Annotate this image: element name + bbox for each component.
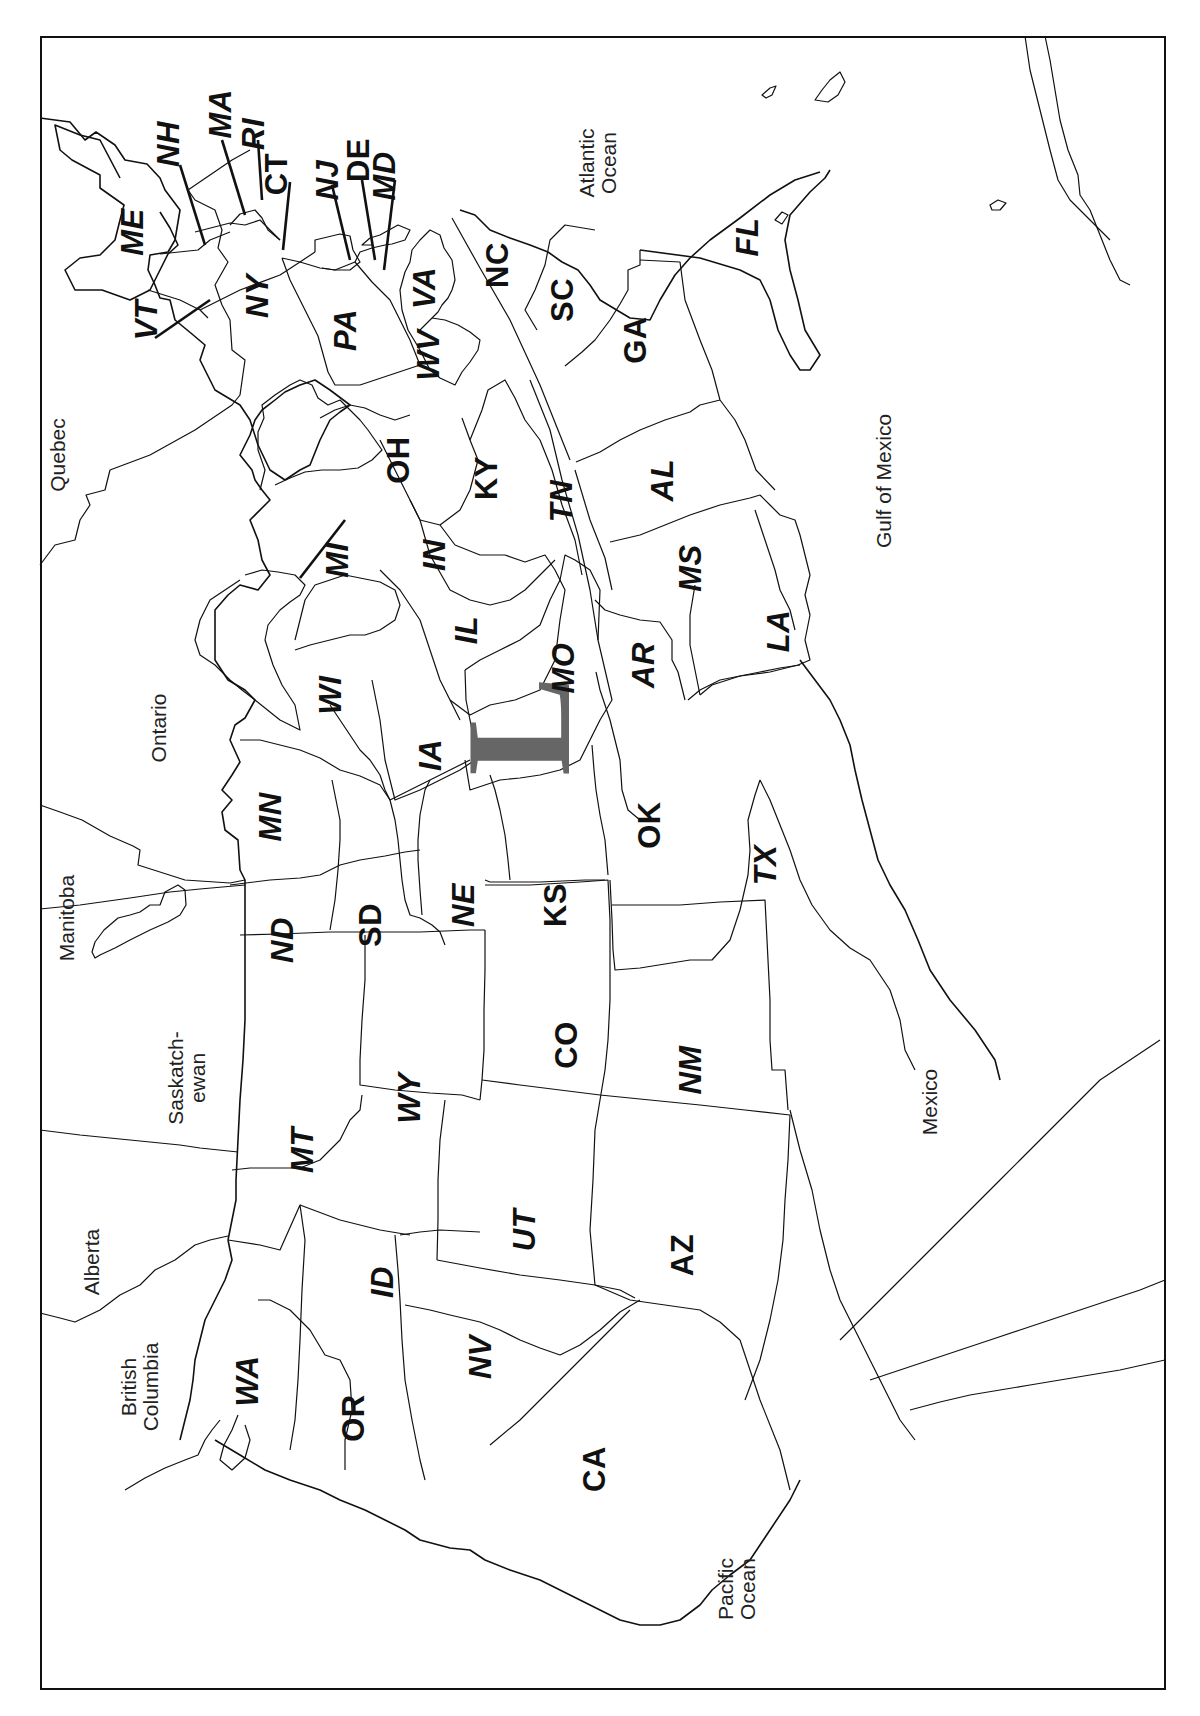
state-label-or: OR [338,1394,369,1442]
state-label-vt: VT [131,300,162,341]
state-label-mt: MT [287,1127,318,1173]
state-label-mn: MN [255,792,286,841]
baja-coast [840,1040,1160,1340]
ct-ri-border [230,210,280,240]
region-label-line: Atlantic [576,129,598,198]
ar-ok-border [596,672,640,820]
al-ms-border [610,495,760,542]
yucatan-peninsula [1045,36,1130,285]
state-label-md: MD [369,151,400,200]
state-label-wi: WI [315,676,346,715]
region-label-alberta: Alberta [81,1229,102,1296]
region-label-line: Gulf of Mexico [872,414,895,548]
region-label-line: Saskatch- [165,1031,187,1124]
nj-outline [315,234,360,270]
state-label-nv: NV [465,1335,496,1379]
tx-mexico-border [760,780,915,1070]
ar-la-border [690,585,700,695]
state-label-il: IL [451,616,482,645]
state-label-ny: NY [242,274,273,318]
alberta-bc-border [40,1236,228,1322]
lake-michigan [295,575,400,650]
region-label-line: Quebec [46,418,69,492]
state-label-ne: NE [448,883,479,927]
state-label-sd: SD [355,903,386,947]
region-label-british-columbia: BritishColumbia [118,1343,162,1432]
wa-id-border [228,1205,305,1450]
region-label-quebec: Quebec [47,418,68,492]
region-label-mexico: Mexico [919,1069,940,1136]
region-label-pacific-ocean: PacificOcean [715,1558,759,1620]
gulf-california [910,1360,1165,1410]
region-label-gulf-of-mexico: Gulf of Mexico [873,414,894,548]
nd-sd-border [330,780,340,930]
state-label-nc: NC [482,242,513,288]
wa-or-border [258,1300,352,1470]
lake-superior [195,570,305,730]
tn-al-border [575,470,612,590]
state-label-ks: KS [540,883,571,927]
ga-fl-border [640,260,775,490]
state-label-ct: CT [261,153,292,195]
state-label-ma: MA [205,89,236,138]
co-ut-nm-border [482,1080,790,1115]
mn-nd-border [230,850,420,885]
island-4 [775,212,788,224]
ar-tx-border [688,665,800,700]
state-label-ms: MS [675,544,706,592]
lake-winnipeg [92,885,186,958]
region-label-saskatchewan: Saskatch-ewan [165,1031,209,1124]
md-de-outline [355,225,410,262]
mexico-us-border [790,1110,915,1440]
state-label-nd: ND [267,917,298,963]
state-label-ri: RI [238,118,269,150]
id-or-border [300,1205,410,1235]
saskatchewan-alberta-border [40,1130,238,1152]
state-label-sc: SC [547,278,578,322]
puget-sound [220,1415,250,1470]
state-label-al: AL [647,459,678,501]
region-label-line: Ontario [147,694,170,763]
state-label-oh: OH [383,436,414,484]
az-nm-border [745,1115,790,1400]
state-label-mi: MI [322,542,353,577]
yucatan-inner [1025,36,1110,240]
state-label-nj: NJ [312,160,343,201]
ontario-manitoba-border [40,805,245,883]
region-label-manitoba: Manitoba [56,875,77,961]
region-label-ontario: Ontario [148,694,169,763]
state-label-mo: MO [548,643,579,694]
region-label-line: Alberta [80,1229,103,1296]
pacific-coast [215,1440,800,1625]
sd-ne-border [418,780,430,915]
nv-ca-border [405,1300,640,1355]
id-nv-ut [400,1230,480,1235]
state-label-tn: TN [546,480,577,522]
or-nv-border [395,1235,425,1480]
ut-az-nv [437,1260,635,1298]
ga-al-border [576,400,720,462]
region-label-line: ewan [187,1031,209,1124]
state-label-id: ID [367,1266,398,1298]
gulf-coast-texas [800,660,1000,1080]
nv-ca-diag [490,1310,630,1445]
region-label-line: Columbia [140,1343,162,1432]
state-label-me: ME [117,208,148,256]
florida-outline [640,170,830,370]
state-label-ca: CA [579,1446,610,1492]
region-label-line: Pacific [715,1558,737,1620]
state-label-fl: FL [732,218,763,257]
island-1 [815,72,845,102]
state-label-ok: OK [634,801,665,849]
state-label-wy: WY [394,1073,425,1124]
island-2 [762,86,776,98]
state-label-wv: WV [413,330,444,381]
state-label-pa: PA [330,309,361,351]
state-label-ga: GA [620,316,651,364]
la-coast [700,495,810,695]
region-label-line: British [118,1343,140,1432]
baja-peninsula [870,1280,1165,1380]
state-label-la: LA [763,610,794,652]
id-wy-ut [437,1100,445,1260]
state-label-va: VA [409,267,440,309]
